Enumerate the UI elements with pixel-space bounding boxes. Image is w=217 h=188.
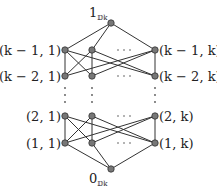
label-right-row1: (k − 1, k) (159, 43, 217, 58)
label-left-row3: (2, 1) (26, 109, 61, 124)
bottom-label: 0𝔻k (89, 171, 108, 188)
vertical-ellipsis (64, 87, 156, 103)
label-left-row4: (1, 1) (26, 136, 61, 151)
top-label: 1𝔻k (89, 5, 108, 22)
edges (65, 23, 155, 169)
label-right-row4: (1, k) (159, 136, 194, 151)
node-bottom (108, 166, 114, 172)
node-top (108, 20, 114, 26)
label-right-row3: (2, k) (159, 109, 194, 124)
label-left-row2: (k − 2, 1) (0, 69, 61, 84)
label-right-row2: (k − 2, k) (159, 69, 217, 84)
label-left-row1: (k − 1, 1) (0, 43, 61, 58)
lattice-diagram: 1𝔻k 0𝔻k (k − 1, 1) (k − 2, 1) (2, 1) (1,… (0, 0, 217, 188)
